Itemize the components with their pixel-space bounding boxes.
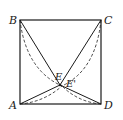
segment-ae <box>20 85 60 104</box>
label-b: B <box>8 14 17 27</box>
label-e-prime: E' <box>65 78 76 89</box>
segment-be <box>20 20 60 85</box>
label-c: C <box>104 14 113 27</box>
point-e <box>59 84 62 87</box>
square-abcd <box>20 20 101 104</box>
square-diagram: B C A D E E' <box>0 0 123 120</box>
segment-ce <box>60 20 101 85</box>
label-e: E <box>54 71 63 82</box>
label-d: D <box>103 99 113 112</box>
label-a: A <box>8 99 17 112</box>
